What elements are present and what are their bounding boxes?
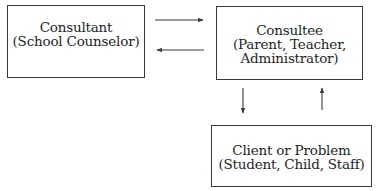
arrows-layer [0, 0, 376, 191]
